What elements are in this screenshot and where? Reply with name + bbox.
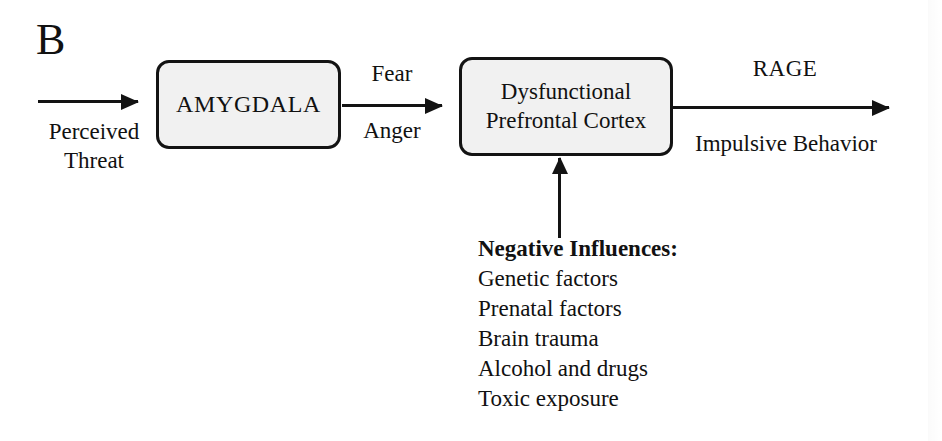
negative-influences-heading: Negative Influences: bbox=[478, 234, 678, 264]
node-amygdala: AMYGDALA bbox=[156, 60, 341, 149]
arrow-amygdala-to-prefrontal-cortex bbox=[342, 104, 442, 107]
arrow-negative-influences-to-prefrontal-cortex bbox=[558, 158, 561, 238]
edge-label-anger: Anger bbox=[342, 118, 442, 144]
node-dysfunctional-prefrontal-cortex: Dysfunctional Prefrontal Cortex bbox=[459, 57, 673, 156]
arrow-perceived-threat-to-amygdala bbox=[38, 100, 138, 103]
negative-influences-item: Toxic exposure bbox=[478, 384, 678, 414]
edge-label-impulsive-behavior: Impulsive Behavior bbox=[672, 131, 900, 157]
panel-letter: B bbox=[36, 18, 66, 62]
negative-influences-item: Genetic factors bbox=[478, 264, 678, 294]
negative-influences-item: Brain trauma bbox=[478, 324, 678, 354]
node-prefrontal-cortex-label-line2: Prefrontal Cortex bbox=[486, 107, 646, 135]
figure-panel-b: B Perceived Threat AMYGDALA Fear Anger D… bbox=[0, 0, 942, 441]
edge-label-perceived-threat-line2: Threat bbox=[28, 146, 160, 175]
node-prefrontal-cortex-label-line1: Dysfunctional bbox=[486, 78, 646, 106]
negative-influences-list: Negative Influences: Genetic factors Pre… bbox=[478, 234, 678, 414]
edge-label-rage: RAGE bbox=[690, 56, 880, 82]
edge-label-fear: Fear bbox=[342, 61, 442, 87]
edge-label-perceived-threat: Perceived Threat bbox=[28, 117, 160, 176]
node-amygdala-label: AMYGDALA bbox=[176, 91, 321, 118]
edge-label-perceived-threat-line1: Perceived bbox=[28, 117, 160, 146]
arrow-prefrontal-cortex-to-outcome bbox=[673, 106, 889, 109]
negative-influences-item: Alcohol and drugs bbox=[478, 354, 678, 384]
negative-influences-item: Prenatal factors bbox=[478, 294, 678, 324]
page-edge-shadow bbox=[928, 0, 942, 441]
